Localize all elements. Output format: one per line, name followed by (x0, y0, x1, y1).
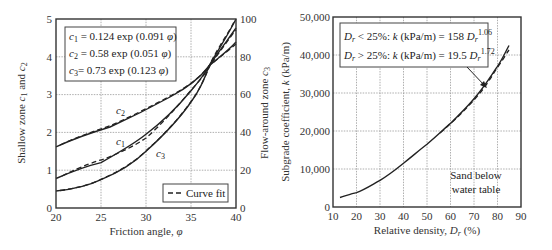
svg-text:20,000: 20,000 (300, 125, 331, 137)
equation-low-density: Dr < 25%: k (kPa/m) = 158 Dr1.06 (343, 28, 492, 44)
right-y-axis-label: Subgrade coefficient, k (kPa/m) (279, 42, 292, 182)
left-x-axis-label: Friction angle, φ (110, 225, 183, 237)
svg-text:5: 5 (47, 13, 53, 25)
right-equation-box: Dr < 25%: k (kPa/m) = 158 Dr1.06 Dr > 25… (340, 23, 495, 67)
annotation-line2: water table (452, 183, 501, 195)
left-y-ticks: 0 1 2 3 4 5 (47, 13, 53, 214)
svg-text:30: 30 (141, 211, 153, 223)
right-chart: Dr < 25%: k (kPa/m) = 158 Dr1.06 Dr > 25… (279, 11, 527, 238)
svg-text:2: 2 (47, 126, 53, 138)
svg-text:50: 50 (422, 210, 434, 222)
svg-text:90: 90 (516, 210, 528, 222)
svg-text:3: 3 (47, 88, 53, 100)
label-c3: c3 (156, 147, 165, 161)
equation-c2: c2 = 0.58 exp (0.051 φ) (69, 47, 171, 61)
equation-high-density: Dr > 25%: k (kPa/m) = 19.5 Dr1.72 (343, 47, 495, 63)
svg-text:40: 40 (398, 210, 410, 222)
svg-text:80: 80 (492, 210, 504, 222)
left-x-ticks: 20 25 30 35 40 (51, 211, 243, 223)
svg-text:20: 20 (240, 164, 252, 176)
svg-text:35: 35 (186, 211, 198, 223)
svg-text:10,000: 10,000 (300, 163, 331, 175)
left-y2-axis-label: Flow-around zone c3 (258, 67, 272, 159)
arrow-icon (467, 67, 487, 88)
left-legend: Curve fit (163, 184, 228, 202)
label-c2: c2 (116, 104, 125, 118)
svg-text:40,000: 40,000 (300, 49, 331, 61)
left-y2-ticks: 0 20 40 60 80 100 (240, 13, 257, 214)
right-x-ticks: 10 20 30 40 50 60 70 80 90 (328, 210, 528, 222)
svg-text:40: 40 (240, 126, 252, 138)
svg-text:60: 60 (240, 88, 252, 100)
svg-text:20: 20 (51, 211, 63, 223)
svg-text:100: 100 (240, 13, 257, 25)
svg-text:50,000: 50,000 (300, 11, 331, 23)
svg-text:4: 4 (47, 51, 53, 63)
equation-c1: c1 = 0.124 exp (0.091 φ) (69, 30, 177, 44)
svg-text:0: 0 (325, 201, 331, 213)
svg-text:0: 0 (47, 202, 53, 214)
label-c1: c1 (116, 135, 125, 149)
svg-text:30: 30 (375, 210, 387, 222)
figure: c1 = 0.124 exp (0.091 φ) c2 = 0.58 exp (… (0, 0, 552, 250)
svg-text:70: 70 (469, 210, 481, 222)
svg-text:0: 0 (240, 202, 246, 214)
legend-label: Curve fit (186, 187, 225, 199)
svg-text:60: 60 (445, 210, 457, 222)
svg-text:20: 20 (351, 210, 363, 222)
left-chart: c1 = 0.124 exp (0.091 φ) c2 = 0.58 exp (… (15, 13, 272, 237)
left-y-axis-label: Shallow zone c1 and c2 (15, 62, 29, 164)
right-x-axis-label: Relative density, Dr (%) (374, 224, 481, 238)
svg-text:25: 25 (96, 211, 108, 223)
svg-text:1: 1 (47, 164, 53, 176)
svg-text:80: 80 (240, 51, 252, 63)
equation-c3: c3= 0.73 exp (0.123 φ) (69, 64, 169, 78)
left-equation-box: c1 = 0.124 exp (0.091 φ) c2 = 0.58 exp (… (65, 27, 177, 81)
annotation-line1: Sand below (450, 169, 502, 181)
svg-text:30,000: 30,000 (300, 87, 331, 99)
right-y-ticks: 0 10,000 20,000 30,000 40,000 50,000 (300, 11, 331, 213)
